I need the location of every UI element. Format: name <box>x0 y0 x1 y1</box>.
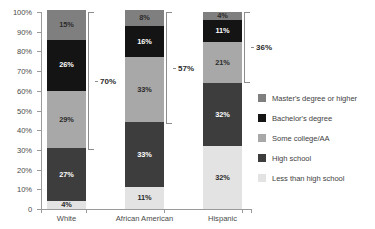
legend-label: Master's degree or higher <box>272 94 357 103</box>
legend-item[interactable]: High school <box>258 148 357 168</box>
bar-segment[interactable]: 11% <box>125 187 164 209</box>
y-tick-mark <box>37 71 41 72</box>
legend-label: Some college/AA <box>272 134 330 143</box>
legend-item[interactable]: Some college/AA <box>258 128 357 148</box>
x-axis-line <box>41 209 251 210</box>
legend-swatch-icon <box>258 134 266 142</box>
x-category-label-hispanic: Hispanic <box>208 214 237 223</box>
bracket-hispanic: 36% <box>244 12 250 83</box>
x-tick-mark <box>86 209 87 213</box>
x-tick-mark <box>41 209 42 213</box>
y-tick-label: 0 <box>28 205 32 214</box>
x-tick-mark <box>242 209 243 213</box>
y-tick-label: 30% <box>17 145 32 154</box>
y-tick-mark <box>37 91 41 92</box>
bracket-value-label: 57% <box>178 64 194 73</box>
y-tick-label: 20% <box>17 165 32 174</box>
bar-segment[interactable]: 4% <box>203 12 242 20</box>
y-tick-label: 10% <box>17 185 32 194</box>
bar-segment[interactable]: 21% <box>203 42 242 83</box>
bar-segment[interactable]: 32% <box>203 146 242 209</box>
bar-segment-value-label: 33% <box>137 86 152 93</box>
y-tick-label: 50% <box>17 106 32 115</box>
legend-swatch-icon <box>258 174 266 182</box>
bar-segment-value-label: 32% <box>215 174 230 181</box>
x-tick-mark <box>251 209 252 213</box>
y-axis-labels: 010%20%30%40%50%60%70%80%90%100% <box>0 12 36 209</box>
y-tick-label: 40% <box>17 126 32 135</box>
bar-segment[interactable]: 11% <box>203 20 242 42</box>
y-tick-mark <box>37 150 41 151</box>
bar-segment-value-label: 16% <box>137 38 152 45</box>
bar-segment-value-label: 29% <box>59 116 74 123</box>
legend-label: Less than high school <box>272 174 344 183</box>
bracket-tick <box>251 47 254 48</box>
chart-legend: Master's degree or higherBachelor's degr… <box>258 88 357 188</box>
y-tick-label: 80% <box>17 47 32 56</box>
bar-segment-value-label: 33% <box>137 151 152 158</box>
bar-segment[interactable]: 16% <box>125 26 164 58</box>
stacked-bar-chart: 010%20%30%40%50%60%70%80%90%100% 4%27%29… <box>0 0 375 229</box>
bar-segment-value-label: 11% <box>215 27 229 34</box>
bar-stack-african-american[interactable]: 11%33%33%16%8% <box>125 12 164 209</box>
bar-segment-value-label: 26% <box>59 61 74 68</box>
legend-item[interactable]: Less than high school <box>258 168 357 188</box>
bar-segment-value-label: 21% <box>215 59 230 66</box>
y-tick-mark <box>37 130 41 131</box>
bar-segment[interactable]: 27% <box>47 148 86 201</box>
bar-segment[interactable]: 8% <box>125 10 164 26</box>
legend-item[interactable]: Bachelor's degree <box>258 108 357 128</box>
bracket-value-label: 70% <box>100 76 116 85</box>
bracket-value-label: 36% <box>256 43 272 52</box>
bracket-tick <box>95 81 98 82</box>
bar-segment[interactable]: 33% <box>125 57 164 122</box>
bar-segment[interactable]: 26% <box>47 40 86 91</box>
bar-segment[interactable]: 32% <box>203 83 242 146</box>
y-tick-mark <box>37 189 41 190</box>
legend-item[interactable]: Master's degree or higher <box>258 88 357 108</box>
bar-segment-value-label: 11% <box>137 194 151 201</box>
y-tick-label: 90% <box>17 27 32 36</box>
y-axis-line <box>41 12 42 209</box>
bar-segment-value-label: 15% <box>59 21 74 28</box>
bar-stack-hispanic[interactable]: 32%32%21%11%4% <box>203 12 242 209</box>
x-category-label-white: White <box>57 214 76 223</box>
bar-segment[interactable]: 29% <box>47 91 86 148</box>
y-tick-mark <box>37 51 41 52</box>
legend-swatch-icon <box>258 114 266 122</box>
bar-segment-value-label: 8% <box>139 14 149 21</box>
bracket-african-american: 57% <box>166 12 172 124</box>
bar-segment-value-label: 4% <box>217 12 227 19</box>
legend-swatch-icon <box>258 154 266 162</box>
bracket-tick <box>173 68 176 69</box>
y-tick-mark <box>37 12 41 13</box>
bracket-white: 70% <box>88 12 94 150</box>
bar-segment[interactable]: 15% <box>47 10 86 40</box>
x-category-label-african-american: African American <box>116 214 173 223</box>
x-tick-mark <box>164 209 165 213</box>
bar-stack-white[interactable]: 4%27%29%26%15% <box>47 12 86 209</box>
y-tick-label: 100% <box>13 8 32 17</box>
bar-segment-value-label: 4% <box>61 201 71 208</box>
y-tick-mark <box>37 32 41 33</box>
y-tick-label: 60% <box>17 86 32 95</box>
bar-segment-value-label: 27% <box>59 171 74 178</box>
y-tick-mark <box>37 170 41 171</box>
legend-label: Bachelor's degree <box>272 114 332 123</box>
bar-segment[interactable]: 4% <box>47 201 86 209</box>
bar-segment[interactable]: 33% <box>125 122 164 187</box>
y-tick-label: 70% <box>17 67 32 76</box>
legend-swatch-icon <box>258 94 266 102</box>
y-tick-mark <box>37 111 41 112</box>
legend-label: High school <box>272 154 311 163</box>
bar-segment-value-label: 32% <box>215 111 230 118</box>
